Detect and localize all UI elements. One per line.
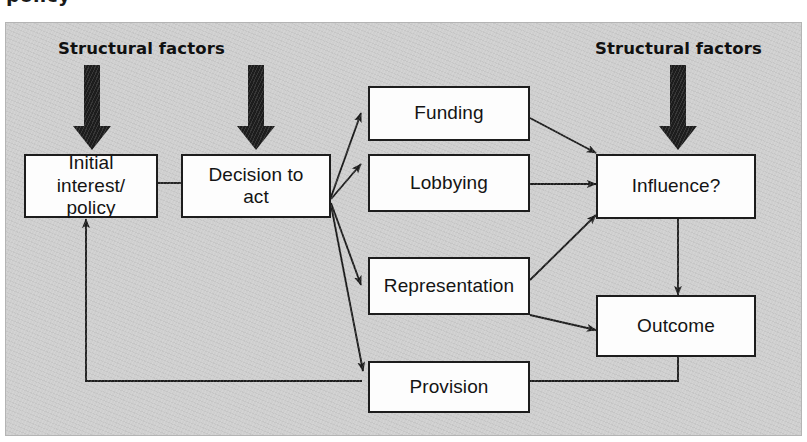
node-initial-line2: policy [32, 197, 150, 219]
node-lobbying[interactable]: Lobbying [368, 154, 530, 212]
structural-arrow-left-2 [237, 65, 275, 150]
cut-off-title-text: policy [0, 0, 807, 6]
structural-arrow-right [659, 65, 697, 150]
node-representation-label: Representation [378, 275, 520, 297]
structural-arrow-left-1 [73, 65, 111, 150]
edge-funding-to-influence [530, 118, 596, 153]
node-provision[interactable]: Provision [368, 361, 530, 413]
structural-factors-label-right: Structural factors [595, 39, 762, 58]
edge-outcome-to-provision [530, 357, 678, 381]
node-influence[interactable]: Influence? [596, 154, 756, 219]
node-funding[interactable]: Funding [368, 86, 530, 141]
edge-representation-to-outcome [530, 315, 596, 330]
edge-decision-to-provision [331, 205, 363, 371]
node-decision-line1: Decision to [202, 164, 309, 186]
node-provision-label: Provision [403, 376, 494, 398]
edge-representation-to-influence [530, 215, 596, 280]
edge-decision-to-funding [331, 113, 361, 197]
node-lobbying-label: Lobbying [404, 172, 494, 194]
node-representation[interactable]: Representation [368, 257, 530, 315]
figure-screenshot: policy [0, 0, 807, 442]
diagram-panel: Structural factors Structural factors In… [5, 22, 802, 436]
structural-factors-label-left: Structural factors [58, 39, 225, 58]
edge-decision-to-representation [331, 203, 361, 285]
node-decision-to-act[interactable]: Decision to act [181, 154, 331, 218]
node-initial-interest-policy[interactable]: Initial interest/ policy [24, 154, 158, 218]
node-influence-label: Influence? [626, 175, 727, 197]
node-initial-line1: Initial interest/ [32, 152, 150, 197]
edge-provision-feedback-to-initial [86, 219, 362, 381]
node-funding-label: Funding [408, 102, 489, 124]
node-decision-line2: act [202, 186, 309, 208]
node-outcome-label: Outcome [631, 315, 721, 337]
edge-decision-to-lobbying [331, 164, 361, 199]
node-outcome[interactable]: Outcome [596, 295, 756, 357]
